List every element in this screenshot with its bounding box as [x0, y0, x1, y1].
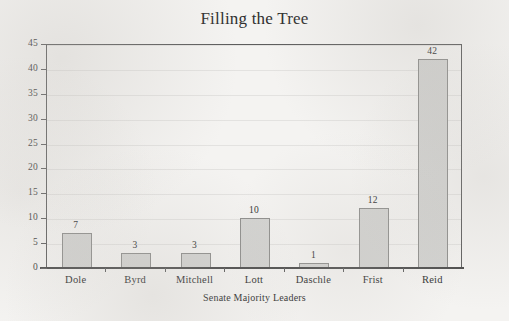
y-axis-tick-label: 10: [12, 212, 38, 222]
y-axis-tick-label: 40: [12, 63, 38, 73]
y-axis-tick-label: 0: [12, 262, 38, 272]
x-axis-tick-mark: [403, 268, 404, 272]
y-axis-tick-mark: [41, 144, 47, 145]
y-axis-tick-label: 25: [12, 138, 38, 148]
gridline: [47, 145, 461, 146]
bar: [121, 253, 151, 268]
y-axis-tick-label: 45: [12, 38, 38, 48]
x-axis-line: [40, 267, 464, 269]
y-axis-tick-mark: [41, 168, 47, 169]
bar: [62, 233, 92, 268]
y-axis-tick-label: 30: [12, 113, 38, 123]
x-axis-title: Senate Majority Leaders: [0, 292, 509, 303]
bar: [359, 208, 389, 268]
y-axis-tick-mark: [41, 218, 47, 219]
gridline: [47, 169, 461, 170]
x-axis-tick-mark: [165, 268, 166, 272]
bar-value-label: 3: [115, 240, 155, 250]
x-axis-tick-mark: [284, 268, 285, 272]
x-axis-tick-mark: [343, 268, 344, 272]
gridline: [47, 120, 461, 121]
x-axis-tick-label: Reid: [397, 274, 467, 285]
bar-value-label: 12: [353, 195, 393, 205]
bar-value-label: 10: [234, 205, 274, 215]
y-axis-tick-mark: [41, 243, 47, 244]
y-axis-tick-mark: [41, 119, 47, 120]
bar-value-label: 7: [56, 220, 96, 230]
gridline: [47, 95, 461, 96]
bar: [418, 59, 448, 268]
bar-value-label: 42: [412, 46, 452, 56]
y-axis-tick-label: 35: [12, 88, 38, 98]
x-axis-tick-mark: [105, 268, 106, 272]
gridline: [47, 194, 461, 195]
y-axis-tick-mark: [41, 268, 47, 269]
y-axis-tick-label: 20: [12, 162, 38, 172]
y-axis-tick-mark: [41, 69, 47, 70]
x-axis-tick-mark: [224, 268, 225, 272]
bar-value-label: 1: [293, 250, 333, 260]
chart-title: Filling the Tree: [0, 9, 509, 29]
bar: [181, 253, 211, 268]
gridline: [47, 45, 461, 46]
y-axis-tick-label: 5: [12, 237, 38, 247]
bar-value-label: 3: [175, 240, 215, 250]
y-axis-tick-label: 15: [12, 187, 38, 197]
bar-chart: Filling the Tree 051015202530354045 7331…: [0, 0, 509, 321]
gridline: [47, 70, 461, 71]
y-axis-tick-mark: [41, 94, 47, 95]
plot-area: [46, 44, 462, 268]
y-axis-tick-mark: [41, 193, 47, 194]
y-axis-tick-mark: [41, 44, 47, 45]
bar: [240, 218, 270, 268]
